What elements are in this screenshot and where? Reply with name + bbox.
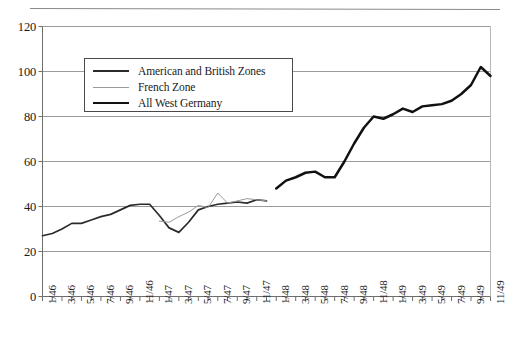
x-tick-label: 1/49: [397, 285, 408, 304]
x-tick-label: 7/46: [105, 285, 116, 304]
y-tick-label: 40: [10, 201, 36, 213]
line-chart-plot: [0, 0, 510, 358]
x-tick-label: 7/48: [339, 285, 350, 304]
legend-line-swatch-icon: [93, 98, 129, 108]
x-tick-label: 11/47: [261, 280, 272, 304]
legend-item-label: French Zone: [138, 81, 195, 94]
y-tick-label: 100: [10, 66, 36, 78]
legend-line-swatch-icon: [93, 82, 129, 92]
y-tick-label: 60: [10, 156, 36, 168]
x-tick-label: 5/48: [319, 285, 330, 304]
chart-figure: 020406080100120 1/463/465/467/469/4611/4…: [0, 0, 510, 358]
x-tick-label: 5/47: [202, 285, 213, 304]
x-tick-label: 7/49: [456, 285, 467, 304]
y-tick-label: 20: [10, 246, 36, 258]
chart-legend: American and British Zones French Zone A…: [84, 58, 293, 112]
x-tick-label: 11/46: [144, 280, 155, 304]
legend-item-french-zone: French Zone: [85, 79, 292, 95]
y-tick-marks-group: [39, 27, 43, 297]
x-tick-label: 3/46: [66, 285, 77, 304]
x-tick-label: 11/48: [378, 280, 389, 304]
x-tick-label: 3/48: [300, 285, 311, 304]
legend-item-all-west-germany: All West Germany: [85, 95, 292, 111]
x-tick-label: 9/49: [475, 285, 486, 304]
y-tick-label: 0: [10, 291, 36, 303]
x-tick-label: 9/47: [241, 285, 252, 304]
y-tick-label: 80: [10, 111, 36, 123]
x-tick-label: 1/47: [163, 285, 174, 304]
legend-item-american-british-zones: American and British Zones: [85, 63, 292, 79]
x-tick-label: 11/49: [495, 280, 506, 304]
y-tick-label: 120: [10, 21, 36, 33]
x-tick-label: 9/48: [358, 285, 369, 304]
x-tick-label: 9/46: [124, 285, 135, 304]
x-tick-label: 3/47: [183, 285, 194, 304]
x-tick-label: 1/48: [280, 285, 291, 304]
x-tick-label: 7/47: [222, 285, 233, 304]
x-tick-label: 3/49: [417, 285, 428, 304]
x-tick-label: 5/49: [436, 285, 447, 304]
legend-item-label: American and British Zones: [138, 65, 265, 78]
legend-item-label: All West Germany: [138, 97, 222, 110]
legend-line-swatch-icon: [93, 66, 129, 76]
x-tick-label: 1/46: [47, 285, 58, 304]
x-tick-label: 5/46: [85, 285, 96, 304]
